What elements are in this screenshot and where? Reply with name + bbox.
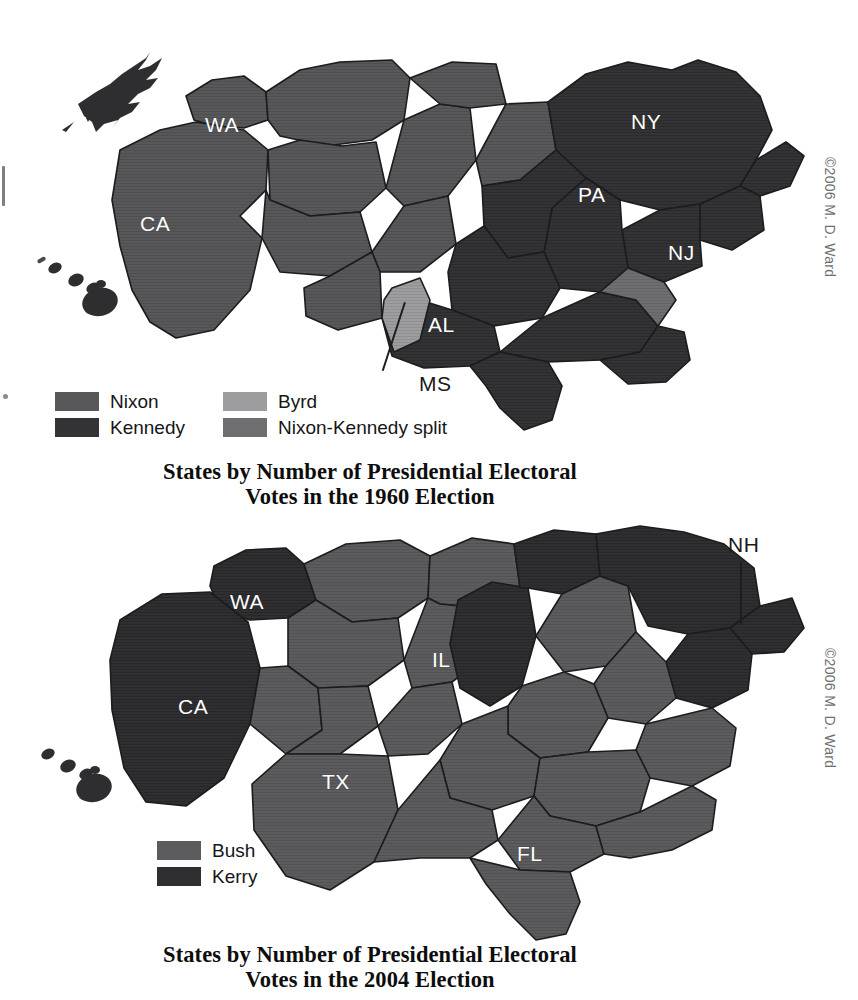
scan-artifact <box>3 394 8 399</box>
legend-item-kennedy: Kennedy <box>55 414 185 440</box>
legend-swatch-bush <box>157 841 201 860</box>
legend-item-bush: Bush <box>157 837 257 863</box>
legend-swatch-kennedy <box>55 418 99 437</box>
cartogram-figure-1960: WA CA NY PA NJ AL MS Nixon Kennedy <box>0 0 858 500</box>
map-title-1960-line1: States by Number of Presidential Elector… <box>0 459 740 484</box>
legend-swatch-split <box>223 418 267 437</box>
legend-label-kennedy: Kennedy <box>110 418 185 437</box>
legend-swatch-nixon <box>55 392 99 411</box>
legend-item-split: Nixon-Kennedy split <box>223 414 447 440</box>
hawaii-1960 <box>47 261 121 321</box>
legend-item-nixon: Nixon <box>55 388 185 414</box>
legend-label-kerry: Kerry <box>212 867 257 886</box>
alaska-1960 <box>62 52 162 132</box>
copyright-1960: ©2006 M. D. Ward <box>822 157 838 277</box>
cartogram-figure-2004: WA CA IL TX FL NH Bush Kerry States by N… <box>0 500 858 1000</box>
legend-swatch-kerry <box>157 867 201 886</box>
legend-label-byrd: Byrd <box>278 392 317 411</box>
leader-line-nh <box>740 562 742 624</box>
map-title-2004-line2: Votes in the 2004 Election <box>0 967 740 992</box>
legend-item-kerry: Kerry <box>157 863 257 889</box>
legend-label-bush: Bush <box>212 841 255 860</box>
legend-item-byrd: Byrd <box>223 388 447 414</box>
legend-2004: Bush Kerry <box>157 837 257 889</box>
copyright-2004: ©2006 M. D. Ward <box>822 648 838 768</box>
legend-swatch-byrd <box>223 392 267 411</box>
map-title-2004-line1: States by Number of Presidential Elector… <box>0 942 740 967</box>
scan-artifact <box>2 166 5 206</box>
states-1960 <box>112 60 804 430</box>
hawaii-2004 <box>40 747 115 807</box>
map-2004 <box>0 510 820 950</box>
figure-page: WA CA NY PA NJ AL MS Nixon Kennedy <box>0 0 858 1000</box>
legend-label-nixon: Nixon <box>110 392 159 411</box>
legend-label-split: Nixon-Kennedy split <box>278 418 447 437</box>
map-1960 <box>0 0 820 440</box>
map-title-2004: States by Number of Presidential Elector… <box>0 942 740 992</box>
cartogram-svg-1960 <box>0 0 820 450</box>
legend-1960: Nixon Kennedy Byrd Nixon-Kennedy split <box>55 388 447 440</box>
cartogram-svg-2004 <box>0 510 820 950</box>
